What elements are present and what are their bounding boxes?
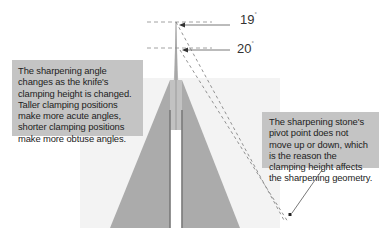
callout-pivot-point: The sharpening stone's pivot point does … — [262, 112, 379, 168]
pivot-point-marker — [289, 213, 292, 216]
jaw-gap — [171, 130, 181, 228]
angle-value-20: 20 — [237, 41, 251, 56]
angle-value-19: 19 — [240, 12, 254, 27]
degree-symbol: ° — [251, 40, 253, 46]
angle-label-20: 20° — [237, 41, 254, 56]
degree-symbol: ° — [254, 11, 256, 17]
callout-clamping-height: The sharpening angle changes as the knif… — [12, 60, 143, 136]
arrow-19-head — [179, 23, 185, 28]
angle-label-19: 19° — [240, 12, 257, 27]
